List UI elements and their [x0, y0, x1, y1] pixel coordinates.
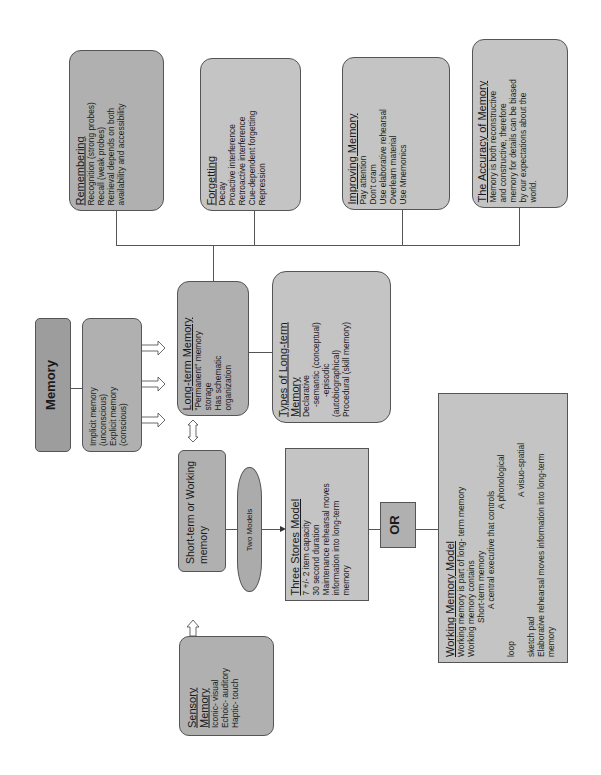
- memory-types-box: Implicit memory (unconscious) Explicit m…: [82, 318, 142, 452]
- wmm-title: Working Memory Model: [444, 399, 456, 657]
- improving-title: Improving Memory: [346, 63, 358, 204]
- forgetting-line: Cue-dependent forgetting: [246, 64, 256, 205]
- improving-line: Don't cram: [368, 63, 378, 204]
- forgetting-title: Forgetting: [204, 64, 216, 205]
- types-ltm-line: Declarative: [300, 277, 310, 417]
- memory-types-line: Implicit memory: [88, 324, 98, 446]
- types-ltm-line: Procedural (skill memory): [340, 277, 350, 417]
- stm-title-line1: Short-term or Working: [184, 458, 197, 564]
- forgetting-box: Forgetting Decay Proactive interference …: [200, 58, 301, 211]
- wmm-line: A central executive that controls: [486, 399, 496, 657]
- ltm-title: Long-term Memory: [181, 287, 193, 410]
- types-ltm-title2: Memory: [288, 277, 300, 417]
- forgetting-line: Retroactive interference: [236, 64, 246, 205]
- or-box: OR: [380, 502, 416, 548]
- accuracy-line: by our expectations about the: [518, 45, 528, 202]
- wmm-line: loop: [506, 399, 516, 657]
- two-models-ellipse: Two Models: [237, 467, 262, 592]
- accuracy-box: The Accuracy of Memory Memory is both re…: [472, 39, 568, 208]
- wmm-line: memory: [546, 399, 556, 657]
- accuracy-line: Memory is both reconstructive: [488, 45, 498, 202]
- remembering-line: Recall (weak probes): [95, 56, 105, 205]
- two-models-label: Two Models: [244, 508, 253, 551]
- remembering-line: Recognition (strong probes): [85, 56, 95, 205]
- stm-title-line2: memory: [197, 458, 210, 564]
- improving-line: Use Mnemonics: [398, 63, 408, 204]
- remembering-box: Remembering Recognition (strong probes) …: [69, 50, 164, 211]
- remembering-title: Remembering: [73, 56, 85, 205]
- types-ltm-line: (autobiographical): [330, 277, 340, 417]
- ltm-line: Has schematic: [213, 287, 223, 410]
- improving-line: Overlearn material: [388, 63, 398, 204]
- forgetting-line: Repression: [256, 64, 266, 205]
- memory-types-line: (conscious): [118, 324, 128, 446]
- improving-memory-box: Improving Memory Pay attention Don't cra…: [342, 57, 450, 210]
- three-stores-line: 7 +/- 2 item capacity: [301, 454, 311, 595]
- sensory-line: Echoic- auditory: [219, 644, 229, 728]
- wmm-line: Working memory contains: [466, 399, 476, 657]
- wmm-line: Short-term memory: [476, 399, 486, 657]
- improving-line: Use elaborative rehearsal: [378, 63, 388, 204]
- accuracy-title: The Accuracy of Memory: [476, 45, 488, 202]
- wmm-line: sketch pad: [526, 399, 536, 657]
- sensory-title-1: Sensory: [185, 644, 197, 728]
- wmm-line: A phonological: [496, 399, 506, 657]
- sensory-line: Iconic- visual: [209, 644, 219, 728]
- memory-types-line: (unconscious): [98, 324, 108, 446]
- memory-title: Memory: [45, 318, 57, 452]
- three-stores-line: memory: [341, 454, 351, 595]
- types-ltm-line: -semantic (conceptual): [310, 277, 320, 417]
- types-ltm-title: Types of Long-term: [276, 277, 288, 417]
- ltm-line: organization: [223, 287, 233, 410]
- types-ltm-line: -episodic: [320, 277, 330, 417]
- forgetting-line: Decay: [216, 64, 226, 205]
- wmm-line: Elaborative rehearsal moves information …: [536, 399, 546, 657]
- memory-types-line: Explicit memory: [108, 324, 118, 446]
- sensory-line: Haptic- touch: [229, 644, 239, 728]
- memory-root-box: Memory: [35, 318, 71, 452]
- working-memory-model-box: Working Memory Model Working memory is p…: [438, 393, 568, 663]
- types-ltm-box: Types of Long-term Memory Declarative -s…: [272, 271, 391, 423]
- forgetting-line: Proactive interference: [226, 64, 236, 205]
- ltm-line: storage: [203, 287, 213, 410]
- remembering-line: Retrieval depends on both: [105, 56, 115, 205]
- three-stores-box: Three Stores Model 7 +/- 2 item capacity…: [285, 448, 369, 601]
- wmm-line: Working memory is part of long- term mem…: [456, 399, 466, 657]
- sensory-title-2: Memory: [197, 644, 209, 728]
- or-label: OR: [389, 502, 401, 548]
- three-stores-line: Maintenance rehearsal moves: [321, 454, 331, 595]
- long-term-memory-box: Long-term Memory "Permanent" memory stor…: [177, 281, 249, 416]
- three-stores-line: 30 second duration: [311, 454, 321, 595]
- accuracy-line: memory for details can be biased: [508, 45, 518, 202]
- remembering-line: availability and accessibility: [115, 56, 125, 205]
- sensory-memory-box: Sensory Memory Iconic- visual Echoic- au…: [179, 636, 274, 736]
- accuracy-line: world.: [528, 45, 538, 202]
- improving-line: Pay attention: [358, 63, 368, 204]
- accuracy-line: and constructive, therefore: [498, 45, 508, 202]
- ltm-line: "Permanent" memory: [193, 287, 203, 410]
- wmm-line: A visuo-spatial: [516, 399, 526, 657]
- three-stores-line: information into long-term: [331, 454, 341, 595]
- short-term-memory-box: Short-term or Working memory: [178, 450, 226, 572]
- three-stores-title: Three Stores Model: [289, 454, 301, 595]
